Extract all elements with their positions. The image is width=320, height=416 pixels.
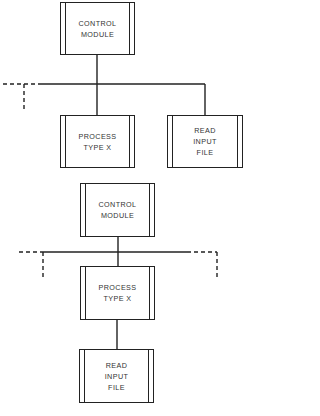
box-label: MODULE xyxy=(81,29,114,40)
box-label: INPUT xyxy=(105,371,129,382)
box-label: TYPE X xyxy=(84,142,112,153)
box-label: READ xyxy=(106,360,128,371)
box-label: READ xyxy=(194,125,216,136)
read-input-file-box-2: READ INPUT FILE xyxy=(79,349,154,403)
box-label: PROCESS xyxy=(79,131,117,142)
process-type-x-box-2: PROCESS TYPE X xyxy=(80,266,155,320)
box-label: TYPE X xyxy=(104,293,132,304)
process-type-x-box: PROCESS TYPE X xyxy=(60,115,135,168)
box-label: CONTROL xyxy=(99,199,137,210)
box-label: INPUT xyxy=(193,136,217,147)
box-label: PROCESS xyxy=(99,282,137,293)
box-label: FILE xyxy=(108,382,125,393)
control-module-box-2: CONTROL MODULE xyxy=(80,183,155,237)
read-input-file-box: READ INPUT FILE xyxy=(167,115,243,168)
box-label: FILE xyxy=(197,147,214,158)
control-module-box: CONTROL MODULE xyxy=(60,2,135,55)
box-label: CONTROL xyxy=(79,18,117,29)
box-label: MODULE xyxy=(101,210,134,221)
